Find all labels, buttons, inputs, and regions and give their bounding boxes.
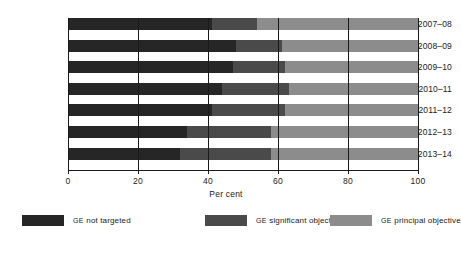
legend-label: GE significant objective [256,216,342,225]
chart-legend: GE not targetedGE significant objectiveG… [0,212,452,242]
bar-row [68,18,418,30]
bars-container [68,18,418,170]
bar-segment [68,126,187,138]
bar-segment [68,148,180,160]
bar-segment [68,104,212,116]
x-axis-tick [68,170,69,174]
bar-segment [289,83,419,95]
bar-segment [271,126,418,138]
bar-segment [282,40,419,52]
bar-segment [68,18,212,30]
x-axis-title: Per cent [0,189,452,199]
bar-segment [285,61,418,73]
legend-label-text: not targeted [84,216,131,225]
gridline [208,18,209,170]
bar-segment [212,18,258,30]
x-axis-tick-label-80: 80 [343,176,353,186]
x-axis-tick-label-20: 20 [133,176,143,186]
x-axis-tick [348,170,349,174]
legend-swatch [205,215,247,226]
bar-row [68,40,418,52]
x-axis-tick-label-60: 60 [273,176,283,186]
plot-area: 2007–082008–092009–102010–112011–122012–… [0,0,452,200]
bar-segment [285,104,418,116]
bar-segment [257,18,418,30]
legend-label: GE principal objective [381,216,461,225]
x-axis-tick [208,170,209,174]
gridline [418,18,419,170]
gridline [348,18,349,170]
bar-segment [68,83,222,95]
gridline [278,18,279,170]
legend-swatch [22,215,64,226]
x-axis-tick-label-40: 40 [203,176,213,186]
legend-item-3[interactable]: GE principal objective [330,212,461,228]
bar-row [68,61,418,73]
bar-segment [271,148,418,160]
bar-segment [68,40,236,52]
bar-row [68,104,418,116]
x-axis-tick-label-100: 100 [410,176,425,186]
y-axis-line [68,18,69,170]
x-axis-tick [138,170,139,174]
legend-label-text: principal objective [392,216,461,225]
legend-item-2[interactable]: GE significant objective [205,212,342,228]
bar-segment [236,40,282,52]
x-axis-line [68,170,419,171]
x-axis-tick [278,170,279,174]
legend-item-1[interactable]: GE not targeted [22,212,131,228]
legend-label: GE not targeted [73,216,131,225]
x-axis-tick [418,170,419,174]
bar-segment [180,148,271,160]
gridline [138,18,139,170]
legend-swatch [330,215,372,226]
bar-row [68,126,418,138]
bar-row [68,148,418,160]
bar-row [68,83,418,95]
bar-segment [187,126,271,138]
bar-segment [212,104,286,116]
x-axis-tick-label-0: 0 [65,176,70,186]
legend-label-prefix: GE [256,217,267,224]
legend-label-prefix: GE [73,217,84,224]
legend-label-prefix: GE [381,217,392,224]
